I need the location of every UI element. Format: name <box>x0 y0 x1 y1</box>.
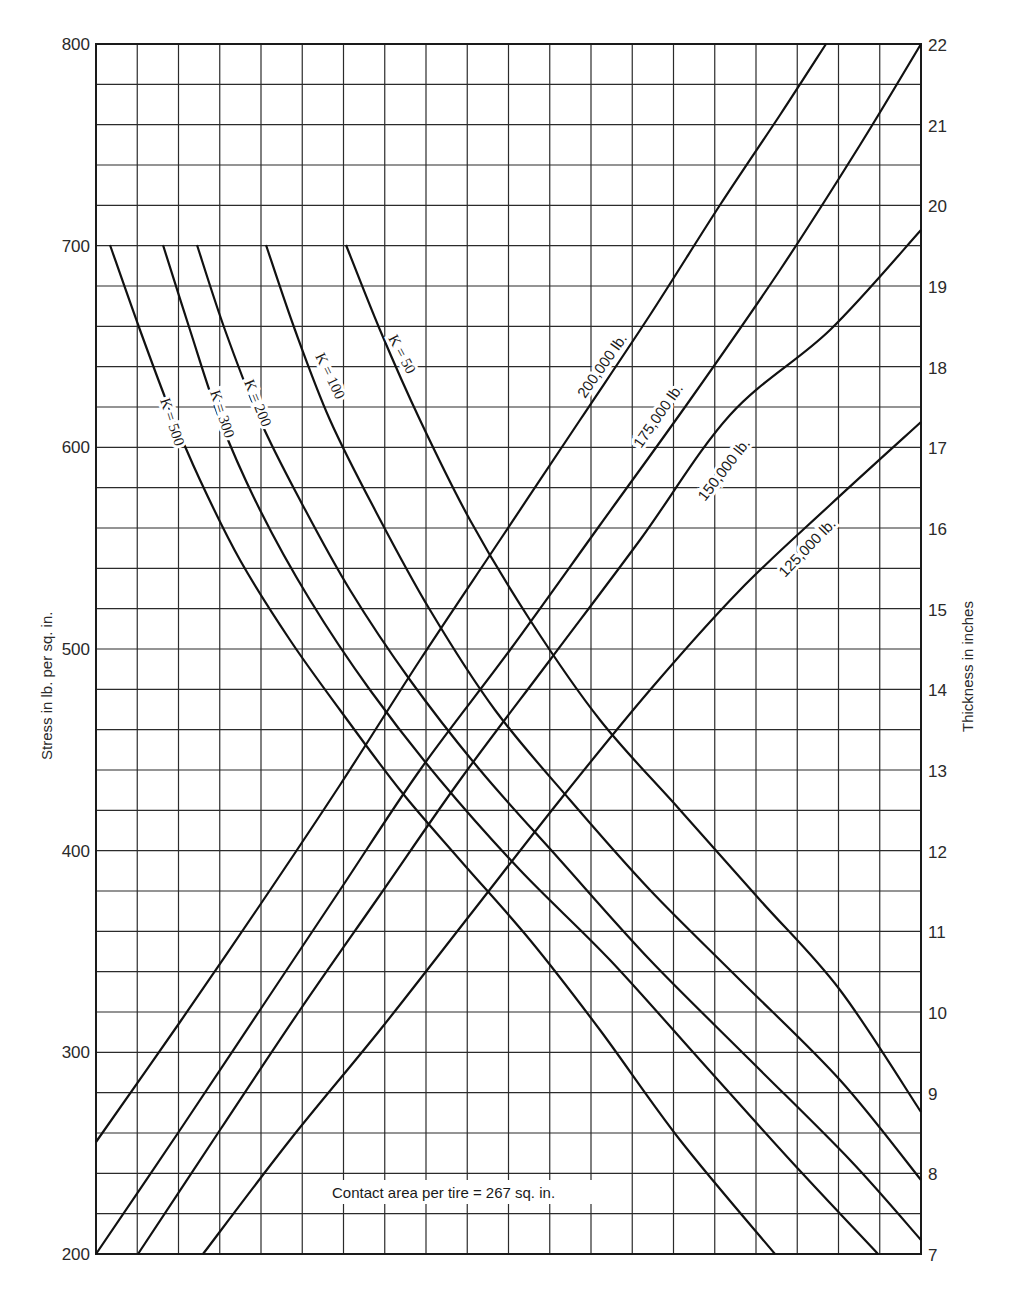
curve-k-50 <box>346 245 921 1112</box>
right-tick-label: 12 <box>928 843 947 862</box>
right-tick-label: 17 <box>928 439 947 458</box>
right-axis-ticks: 78910111213141516171819202122 <box>928 36 947 1265</box>
right-tick-label: 18 <box>928 359 947 378</box>
curve-k-200 <box>197 245 921 1240</box>
right-tick-label: 13 <box>928 762 947 781</box>
left-axis-title: Stress in lb. per sq. in. <box>38 612 55 760</box>
left-tick-label: 700 <box>62 237 90 256</box>
right-tick-label: 10 <box>928 1004 947 1023</box>
label-k500: K = 500 <box>157 396 187 448</box>
curve-200-000-lb <box>96 44 826 1142</box>
left-tick-label: 200 <box>62 1245 90 1264</box>
label-150000: 150,000 lb. <box>694 435 753 504</box>
label-k100: K = 100 <box>312 350 348 401</box>
left-tick-label: 600 <box>62 438 90 457</box>
contact-area-annotation: Contact area per tire = 267 sq. in. <box>332 1184 555 1201</box>
left-axis-ticks: 200300400500600700800 <box>62 35 90 1264</box>
curve-k-300 <box>163 245 878 1254</box>
right-tick-label: 9 <box>928 1085 937 1104</box>
right-tick-label: 22 <box>928 36 947 55</box>
right-tick-label: 21 <box>928 117 947 136</box>
right-axis-title: Thickness in inches <box>959 601 976 732</box>
grid-lines <box>96 44 921 1254</box>
chart: 200300400500600700800 789101112131415161… <box>0 0 1014 1294</box>
right-tick-label: 19 <box>928 278 947 297</box>
left-tick-label: 800 <box>62 35 90 54</box>
right-tick-label: 11 <box>928 923 946 942</box>
label-k300: K = 300 <box>207 388 237 440</box>
right-tick-label: 8 <box>928 1165 937 1184</box>
right-tick-label: 7 <box>928 1246 937 1265</box>
label-k200: K = 200 <box>241 377 274 429</box>
left-tick-label: 300 <box>62 1043 90 1062</box>
label-175000: 175,000 lb. <box>630 380 687 451</box>
right-tick-label: 16 <box>928 520 947 539</box>
right-tick-label: 15 <box>928 601 947 620</box>
right-tick-label: 20 <box>928 197 947 216</box>
right-tick-label: 14 <box>928 681 947 700</box>
left-tick-label: 500 <box>62 640 90 659</box>
left-tick-label: 400 <box>62 842 90 861</box>
label-200000: 200,000 lb. <box>574 330 631 401</box>
